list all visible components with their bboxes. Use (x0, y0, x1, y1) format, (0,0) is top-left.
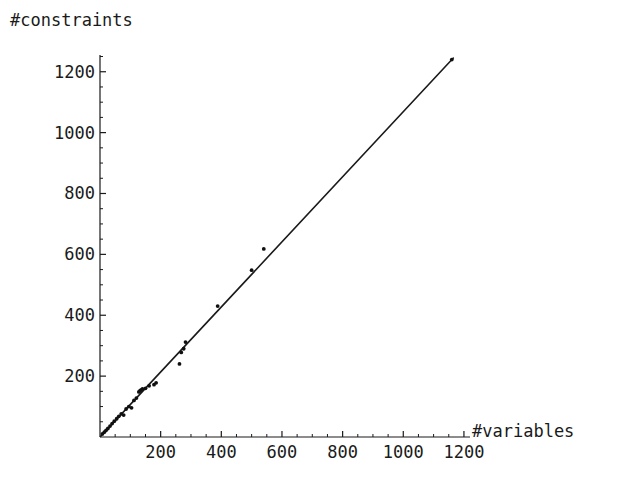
x-tick-label: 400 (206, 442, 237, 462)
scatter-plot-figure: #constraints #variables 2004006008001000… (0, 0, 640, 485)
y-tick-label: 800 (64, 183, 95, 203)
x-tick-label: 1000 (383, 442, 424, 462)
data-point (184, 340, 188, 344)
data-point (122, 413, 126, 417)
y-tick-label: 400 (64, 305, 95, 325)
data-point (154, 381, 158, 385)
x-tick-label: 200 (145, 442, 176, 462)
y-tick-label: 200 (64, 366, 95, 386)
data-point (134, 396, 138, 400)
data-point (130, 406, 134, 410)
y-tick-label: 600 (64, 244, 95, 264)
data-point (250, 268, 254, 272)
x-tick-label: 800 (327, 442, 358, 462)
data-point (216, 304, 220, 308)
axes-group (100, 55, 470, 437)
x-tick-label: 1200 (443, 442, 484, 462)
reference-line (101, 58, 454, 436)
plot-canvas (0, 0, 640, 485)
data-point (178, 362, 182, 366)
reference-line-group (101, 58, 454, 436)
x-tick-label: 600 (267, 442, 298, 462)
y-tick-label: 1200 (54, 62, 95, 82)
data-point (450, 58, 454, 62)
data-point (262, 247, 266, 251)
data-point (147, 384, 151, 388)
data-point (182, 347, 186, 351)
data-point (179, 350, 183, 354)
tick-marks-group (100, 57, 464, 437)
y-tick-label: 1000 (54, 123, 95, 143)
data-point (144, 386, 148, 390)
